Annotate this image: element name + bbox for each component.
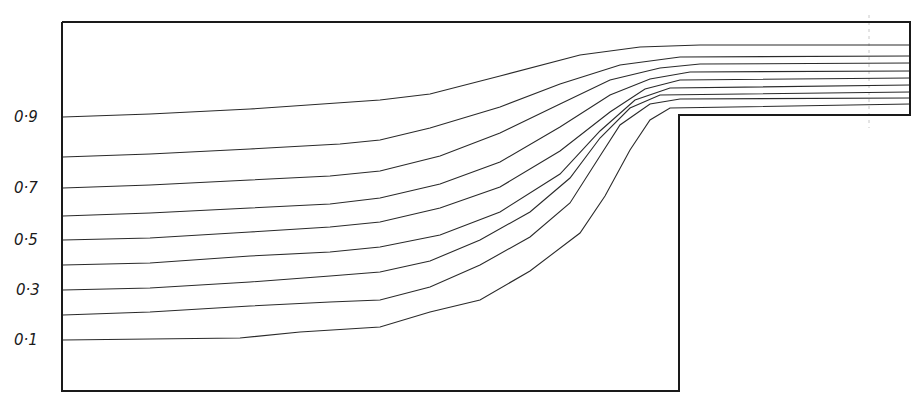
streamline-0-1 [63,104,910,340]
streamline-label: 0·7 [14,179,38,197]
step-boundary-wall [62,22,910,391]
streamline-label: 0·1 [14,331,38,349]
streamline-0-7 [63,63,910,188]
streamline-label: 0·3 [16,281,40,299]
streamline-value-labels: 0·90·70·50·30·1 [14,108,40,349]
streamlines [63,45,910,340]
streamline-0-6 [63,71,910,216]
streamline-0-2 [63,98,910,315]
streamline-label: 0·9 [14,108,38,126]
streamline-label: 0·5 [14,231,38,249]
streamline-diagram: 0·90·70·50·30·1 [0,0,924,406]
streamline-0-5 [63,78,910,240]
